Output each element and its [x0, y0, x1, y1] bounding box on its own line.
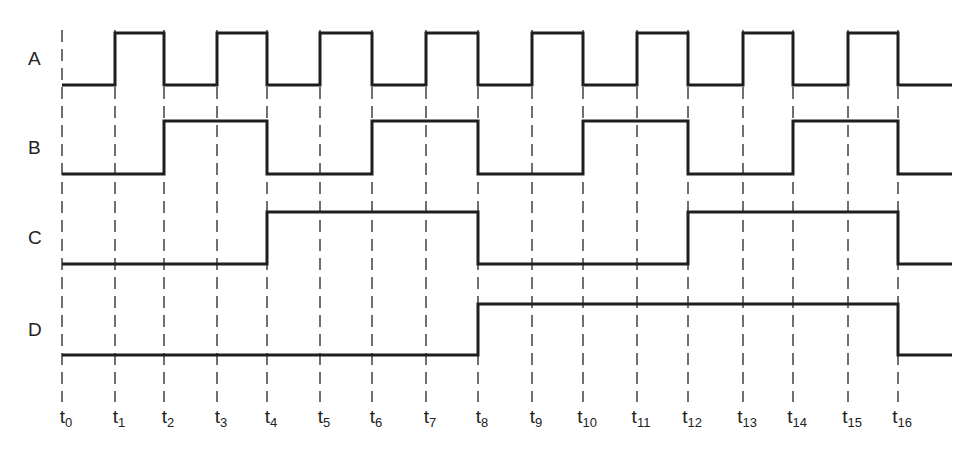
signal-label-a: A	[28, 48, 41, 70]
time-label-t7: t7	[424, 406, 437, 430]
time-label-t1: t1	[113, 406, 126, 430]
waveform-b	[62, 121, 952, 174]
time-label-t3: t3	[215, 406, 228, 430]
waveform-c	[62, 212, 952, 264]
time-label-t4: t4	[265, 406, 278, 430]
time-label-t9: t9	[530, 406, 543, 430]
time-label-t6: t6	[370, 406, 383, 430]
time-label-t0: t0	[60, 406, 73, 430]
signal-label-b: B	[28, 137, 41, 159]
time-label-t11: t11	[632, 406, 651, 430]
time-label-t8: t8	[476, 406, 489, 430]
time-label-t10: t10	[577, 406, 597, 430]
time-label-t14: t14	[787, 406, 807, 430]
time-label-t13: t13	[737, 406, 757, 430]
time-label-t2: t2	[162, 406, 175, 430]
waveform-canvas	[0, 0, 980, 454]
waveform-a	[62, 33, 952, 85]
time-label-t16: t16	[892, 406, 912, 430]
timing-diagram: ABCD t0t1t2t3t4t5t6t7t8t9t10t11t12t13t14…	[0, 0, 980, 454]
time-label-t15: t15	[842, 406, 862, 430]
time-label-t12: t12	[682, 406, 702, 430]
signal-label-d: D	[28, 319, 42, 341]
time-label-t5: t5	[318, 406, 331, 430]
signal-label-c: C	[28, 227, 42, 249]
waveform-d	[62, 304, 952, 355]
